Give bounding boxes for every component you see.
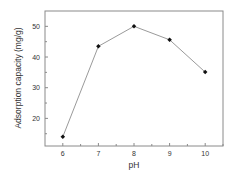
y-axis-ticks: 20304050	[32, 23, 48, 134]
y-tick-label: 50	[32, 23, 40, 30]
x-tick-label: 8	[132, 150, 136, 157]
y-axis-title: Adsorption capacity (mg/g)	[13, 27, 23, 128]
x-tick-label: 9	[168, 150, 172, 157]
y-tick-label: 40	[32, 54, 40, 61]
y-tick-label: 30	[32, 84, 40, 91]
x-axis-ticks: 678910	[61, 143, 223, 157]
data-point	[96, 44, 101, 49]
x-tick-label: 6	[61, 150, 65, 157]
x-tick-label: 7	[96, 150, 100, 157]
data-point	[61, 135, 66, 140]
data-point-markers	[61, 24, 208, 139]
x-tick-label: 10	[201, 150, 209, 157]
data-series-line	[63, 26, 205, 137]
y-tick-label: 20	[32, 115, 40, 122]
x-axis-title: pH	[129, 160, 140, 170]
line-chart: 20304050 678910 pH Adsorption capacity (…	[0, 0, 233, 179]
plot-area-frame	[45, 11, 223, 146]
data-point	[132, 24, 137, 29]
